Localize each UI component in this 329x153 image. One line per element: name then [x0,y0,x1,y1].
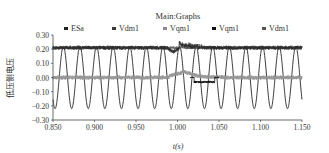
legend-label: Vqm1 [170,24,190,33]
y-tick-label: 0.00 [36,74,49,83]
legend-swatch [262,27,266,30]
x-tick-label: 1.000 [169,123,186,132]
y-tick-label: 0.20 [36,45,49,54]
x-tick-label: 1.150 [294,123,311,132]
x-tick-label: 1.050 [211,123,228,132]
legend-swatch [163,27,167,30]
y-tick-label: −0.20 [32,102,50,111]
axes: 0.300.200.100.00−0.10−0.20−0.300.8500.90… [32,31,311,132]
legend-swatch [64,27,68,30]
legend-label: ESa [71,24,84,33]
legend-swatch [212,27,216,30]
chart: Main:Graphs ESaVdm1Vqm1Vqm1Vdm1 0.300.20… [0,0,329,153]
x-axis-label: t(s) [173,142,184,151]
y-tick-label: 0.30 [36,31,49,40]
series-line [53,70,302,79]
x-tick-label: 0.950 [128,123,145,132]
x-tick-label: 0.900 [86,123,103,132]
legend: ESaVdm1Vqm1Vqm1Vdm1 [64,24,289,33]
x-tick-label: 1.100 [252,123,269,132]
legend-swatch [112,27,116,30]
y-tick-label: −0.10 [32,88,50,97]
y-tick-label: 0.10 [36,59,49,68]
legend-label: Vdm1 [269,24,289,33]
y-axis-label: 低压侧电压 [5,58,15,98]
legend-label: Vqm1 [219,24,239,33]
plot-area [53,41,302,109]
x-tick-label: 0.850 [45,123,62,132]
legend-label: Vdm1 [119,24,139,33]
chart-title: Main:Graphs [156,11,201,21]
